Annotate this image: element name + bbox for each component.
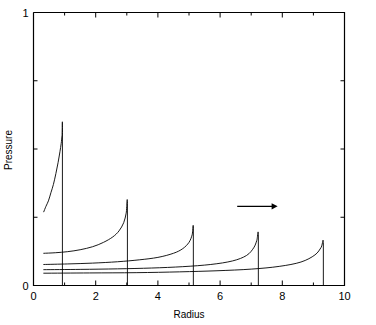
pressure-profile-curve-1: [44, 122, 63, 286]
tick-labels: 024681001: [22, 7, 350, 302]
x-tick-label: 10: [338, 290, 350, 302]
plot-frame: [34, 13, 345, 286]
tick-marks: [34, 13, 345, 286]
pressure-profile-curve-5: [44, 240, 324, 285]
pressure-vs-radius-chart: 024681001 Radius Pressure: [0, 0, 376, 325]
x-axis-title: Radius: [173, 309, 204, 320]
y-tick-label: 0: [22, 280, 28, 292]
annotations: [237, 203, 277, 209]
x-tick-label: 8: [279, 290, 285, 302]
x-tick-label: 2: [93, 290, 99, 302]
direction-arrow-head: [272, 203, 278, 209]
pressure-profile-curve-3: [44, 225, 194, 285]
y-tick-label: 1: [22, 7, 28, 19]
x-tick-label: 0: [30, 290, 36, 302]
x-tick-label: 4: [155, 290, 161, 302]
y-axis-title: Pressure: [3, 130, 14, 170]
data-curves: [44, 122, 324, 286]
figure-canvas: 024681001 Radius Pressure: [0, 0, 376, 325]
x-tick-label: 6: [217, 290, 223, 302]
axes: [34, 13, 345, 286]
